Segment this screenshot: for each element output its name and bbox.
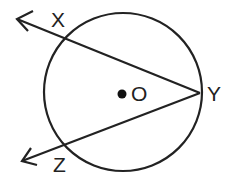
center-point-o	[118, 90, 127, 99]
circle-secant-diagram: X O Y Z	[0, 0, 242, 188]
label-o: O	[131, 82, 147, 105]
label-z: Z	[53, 153, 66, 176]
label-x: X	[51, 8, 65, 31]
ray-yz	[22, 93, 200, 161]
arrowhead-x-icon	[17, 11, 33, 31]
label-y: Y	[207, 82, 221, 105]
